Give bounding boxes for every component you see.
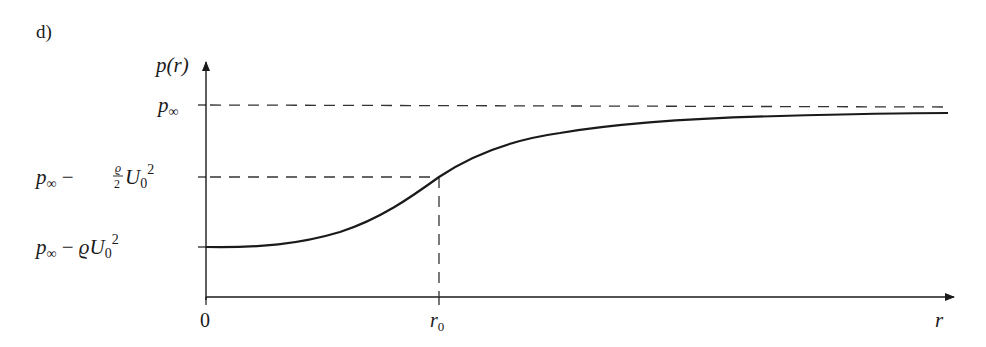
y-axis-label: p(r) (154, 53, 189, 77)
panel-label: d) (36, 21, 52, 43)
x-tick-label-r0: r0 (430, 309, 444, 334)
pressure-curve (206, 113, 948, 247)
asymptote-pinf-dashed (210, 105, 948, 107)
svg-text:ϱ: ϱ (115, 161, 121, 175)
pressure-profile-diagram: d) p(r) p∞ p∞ − ϱ 2 U02 p∞ − ϱU02 0 r0 r (0, 0, 986, 347)
x-tick-label-0: 0 (200, 309, 210, 331)
y-tick-label-half: p∞ − ϱ 2 U02 (34, 161, 154, 191)
x-axis-label: r (935, 308, 944, 332)
y-tick-label-min: p∞ − ϱU02 (34, 232, 119, 261)
svg-text:U02: U02 (125, 162, 154, 191)
y-tick-label-pinf: p∞ (156, 93, 179, 119)
svg-text:2: 2 (114, 177, 120, 191)
svg-text:p∞ −: p∞ − (34, 165, 74, 191)
